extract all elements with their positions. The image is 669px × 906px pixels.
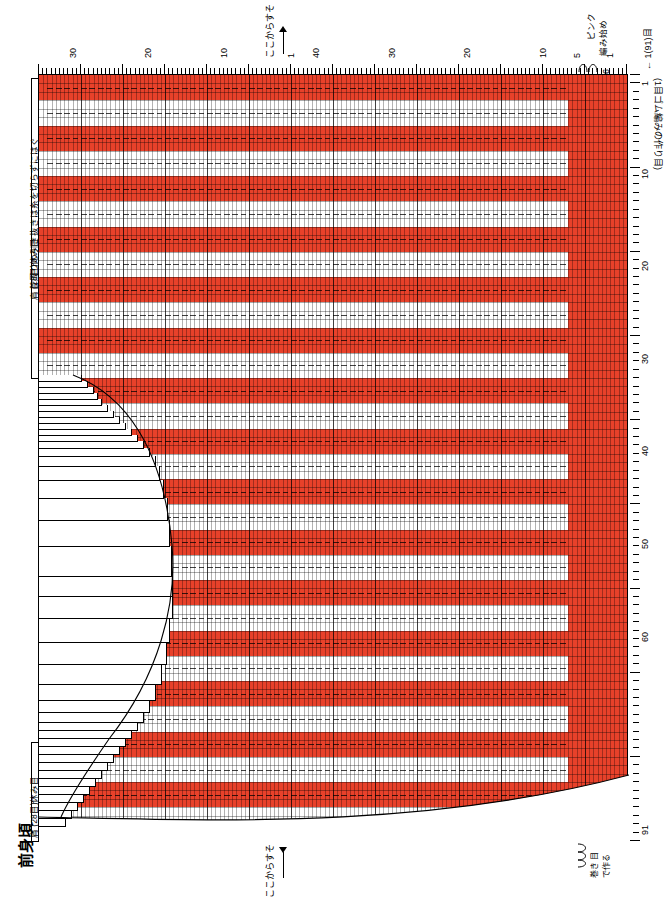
axis-tick bbox=[633, 630, 639, 631]
axis-tick bbox=[529, 68, 530, 74]
axis-tick bbox=[202, 68, 203, 74]
knitting-chart-page: 前身頃 ここからすそ ここからすそ ピンク 編み始め 6 ← 1(91)目 (1… bbox=[0, 0, 669, 906]
label-pink-start-line1: ピンク bbox=[584, 13, 596, 40]
axis-tick bbox=[633, 478, 639, 479]
axis-tick bbox=[500, 64, 501, 74]
top-axis-number: 30 bbox=[68, 48, 78, 58]
axis-tick bbox=[630, 840, 640, 841]
label-pink-start-line2: 編み始め bbox=[596, 20, 608, 56]
axis-tick bbox=[567, 68, 568, 74]
axis-tick bbox=[633, 604, 639, 605]
axis-tick bbox=[483, 68, 484, 74]
axis-tick bbox=[198, 68, 199, 74]
axis-tick bbox=[298, 68, 299, 74]
axis-tick bbox=[633, 731, 639, 732]
axis-tick bbox=[214, 68, 215, 74]
right-axis-number: 60 bbox=[640, 632, 650, 642]
axis-tick bbox=[633, 571, 639, 572]
top-axis-number: 1 bbox=[286, 53, 296, 58]
right-axis-ticks bbox=[629, 74, 641, 842]
axis-tick bbox=[441, 68, 442, 74]
axis-tick bbox=[46, 68, 47, 74]
axis-tick bbox=[633, 226, 639, 227]
top-axis-number: 10 bbox=[538, 48, 548, 58]
axis-tick bbox=[290, 64, 291, 74]
top-axis-number: 20 bbox=[143, 48, 153, 58]
axis-tick bbox=[189, 68, 190, 74]
axis-tick bbox=[227, 68, 228, 74]
axis-tick bbox=[76, 68, 77, 74]
neck-curve bbox=[39, 75, 629, 843]
axis-tick bbox=[563, 68, 564, 74]
axis-tick bbox=[273, 68, 274, 74]
axis-tick bbox=[265, 68, 266, 74]
axis-tick bbox=[151, 68, 152, 74]
axis-tick bbox=[633, 310, 639, 311]
axis-tick bbox=[633, 689, 639, 690]
axis-tick bbox=[374, 64, 375, 74]
axis-tick bbox=[633, 545, 639, 546]
axis-tick bbox=[38, 64, 39, 74]
axis-tick bbox=[633, 284, 639, 285]
top-axis-number: 40 bbox=[311, 48, 321, 58]
axis-tick bbox=[630, 335, 640, 336]
axis-tick bbox=[319, 68, 320, 74]
axis-tick bbox=[633, 806, 639, 807]
axis-tick bbox=[633, 663, 639, 664]
axis-tick bbox=[252, 68, 253, 74]
right-axis-number: 10 bbox=[640, 169, 650, 179]
top-axis-number: 30 bbox=[387, 48, 397, 58]
axis-tick bbox=[466, 68, 467, 74]
axis-tick bbox=[185, 68, 186, 74]
axis-tick bbox=[633, 293, 639, 294]
axis-tick bbox=[555, 68, 556, 74]
axis-tick bbox=[235, 68, 236, 74]
axis-tick bbox=[177, 68, 178, 74]
axis-tick bbox=[633, 495, 639, 496]
axis-tick bbox=[101, 68, 102, 74]
axis-tick bbox=[433, 68, 434, 74]
axis-tick bbox=[412, 68, 413, 74]
axis-tick bbox=[618, 68, 619, 74]
axis-tick bbox=[633, 705, 639, 706]
axis-tick bbox=[450, 68, 451, 74]
axis-tick bbox=[633, 790, 639, 791]
axis-tick bbox=[210, 68, 211, 74]
axis-tick bbox=[633, 739, 639, 740]
brace-shoulder-top bbox=[31, 78, 32, 378]
axis-tick bbox=[181, 68, 182, 74]
axis-tick bbox=[487, 68, 488, 74]
axis-tick bbox=[143, 68, 144, 74]
axis-tick bbox=[633, 343, 639, 344]
axis-tick bbox=[328, 68, 329, 74]
axis-tick bbox=[633, 200, 639, 201]
axis-tick bbox=[454, 68, 455, 74]
axis-tick bbox=[311, 68, 312, 74]
axis-tick bbox=[630, 251, 640, 252]
axis-tick bbox=[345, 68, 346, 74]
axis-tick bbox=[168, 68, 169, 74]
axis-tick bbox=[559, 68, 560, 74]
axis-tick bbox=[633, 259, 639, 260]
label-bottom-center: ここからすそ bbox=[263, 844, 276, 898]
axis-tick bbox=[633, 150, 639, 151]
axis-tick bbox=[633, 722, 639, 723]
axis-tick bbox=[633, 621, 639, 622]
axis-tick bbox=[633, 773, 639, 774]
axis-tick bbox=[332, 64, 333, 74]
axis-tick bbox=[88, 68, 89, 74]
axis-tick bbox=[303, 68, 304, 74]
axis-tick bbox=[571, 68, 572, 74]
axis-tick bbox=[172, 68, 173, 74]
axis-tick bbox=[361, 68, 362, 74]
axis-tick bbox=[633, 268, 639, 269]
axis-tick bbox=[206, 64, 207, 74]
axis-tick bbox=[391, 68, 392, 74]
axis-tick bbox=[63, 68, 64, 74]
arrow-bottom-center-head bbox=[279, 847, 287, 853]
top-axis-number: 20 bbox=[462, 48, 472, 58]
axis-tick bbox=[51, 68, 52, 74]
axis-tick bbox=[633, 638, 639, 639]
top-axis-number: 10 bbox=[219, 48, 229, 58]
axis-tick bbox=[130, 68, 131, 74]
